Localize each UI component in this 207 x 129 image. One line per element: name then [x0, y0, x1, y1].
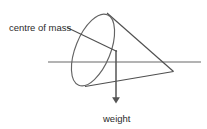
centre-of-mass-label: centre of mass [9, 22, 72, 33]
physics-diagram-cone-centre-of-mass: centre of mass weight [0, 0, 207, 129]
diagram-canvas: centre of mass weight [0, 0, 207, 129]
cone-upper-slant-edge [107, 13, 174, 72]
cone-lower-slant-edge [85, 72, 174, 87]
weight-label: weight [102, 113, 131, 124]
